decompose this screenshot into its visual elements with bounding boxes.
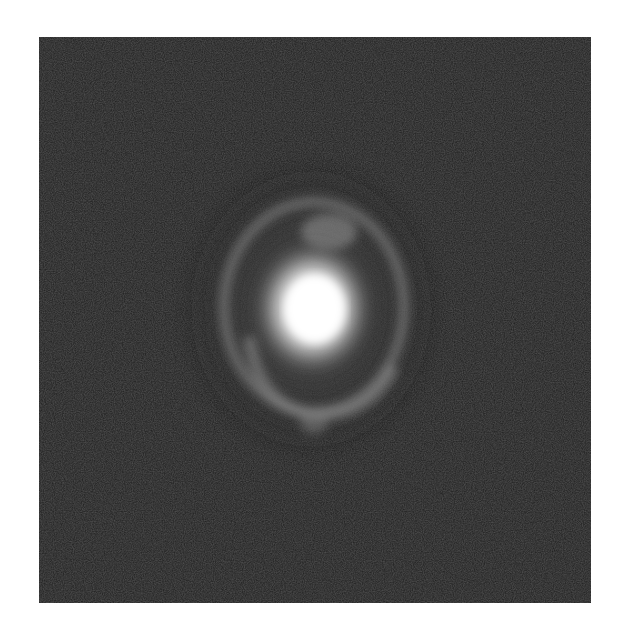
astronomical-image (39, 37, 591, 603)
noise-background (39, 37, 591, 603)
